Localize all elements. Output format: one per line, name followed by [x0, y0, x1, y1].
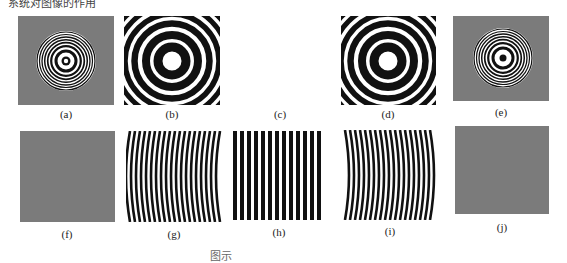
panel-b-rings-magnified — [124, 16, 220, 105]
panel-label-g: (g) — [144, 228, 204, 240]
panel-label-a: (a) — [36, 108, 96, 120]
panel-j-uniform-gray — [455, 126, 549, 214]
panel-i-curved-stripes — [343, 130, 438, 220]
panel-d-rings-magnified — [341, 16, 436, 105]
panel-h-straight-stripes — [232, 131, 326, 220]
panel-e-rings-gray — [453, 16, 549, 101]
panel-label-i: (i) — [360, 225, 420, 237]
panel-label-d: (d) — [358, 108, 418, 120]
panel-label-c: (c) — [250, 108, 310, 120]
panel-label-j: (j) — [472, 221, 532, 233]
straight-stripes — [232, 131, 326, 220]
bottom-caption-fragment: 图示 — [210, 247, 232, 263]
concentric-rings-small — [453, 16, 549, 101]
curved-stripes-left — [126, 131, 222, 222]
concentric-rings-large — [341, 16, 436, 105]
panel-c-blank — [232, 16, 328, 105]
concentric-rings-small — [18, 16, 114, 105]
panel-label-h: (h) — [249, 226, 309, 238]
panel-g-curved-stripes — [126, 131, 222, 222]
panel-a-rings-gray — [18, 16, 114, 105]
panel-f-uniform-gray — [20, 131, 115, 222]
panel-label-e: (e) — [471, 106, 531, 118]
curved-stripes-right — [343, 130, 438, 220]
panel-label-b: (b) — [142, 108, 202, 120]
concentric-rings-large — [124, 16, 220, 105]
top-caption-fragment: 系统对图像的作用 — [8, 0, 96, 10]
panel-label-f: (f) — [37, 228, 97, 240]
